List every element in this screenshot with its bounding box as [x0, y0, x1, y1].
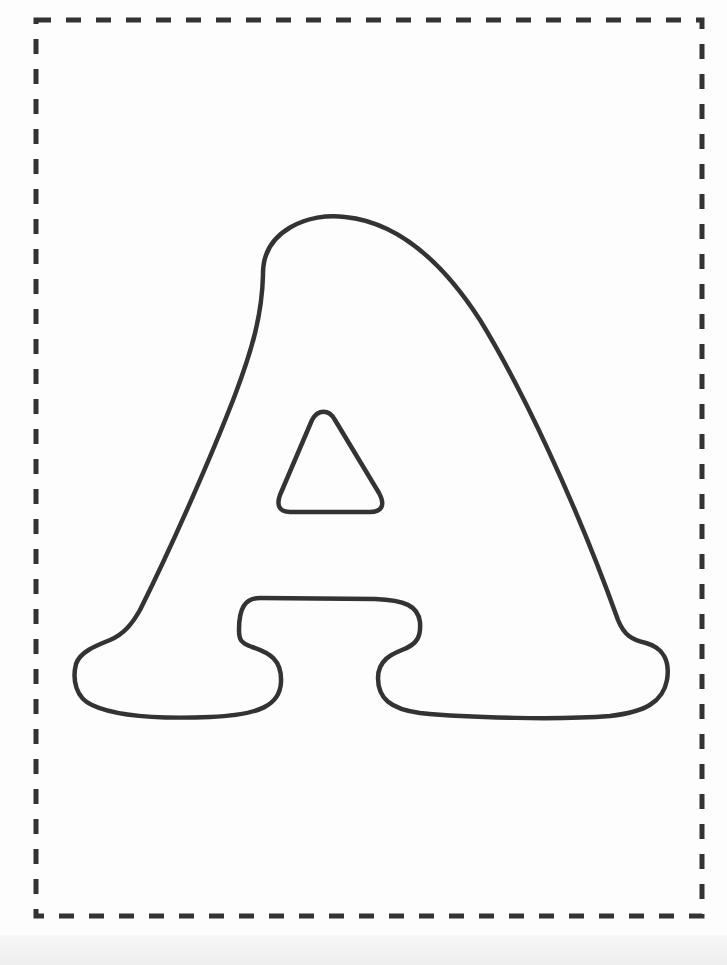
letter-artwork — [0, 0, 727, 965]
coloring-page — [0, 0, 727, 965]
letter-a-counter-hole — [278, 412, 382, 512]
dashed-cut-border — [36, 20, 702, 916]
letter-a-outline — [75, 216, 668, 718]
